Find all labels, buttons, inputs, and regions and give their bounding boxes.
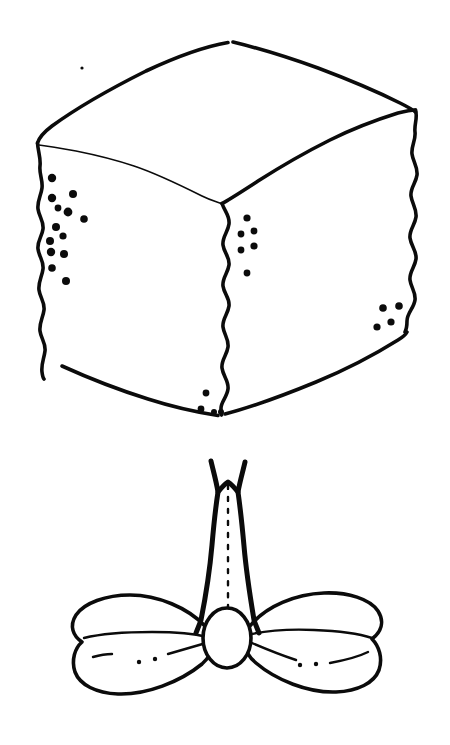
cube-dot bbox=[387, 318, 394, 325]
figure-canvas bbox=[0, 0, 450, 745]
cube-dot bbox=[48, 174, 56, 182]
cube-dot bbox=[250, 242, 257, 249]
cube-dot bbox=[373, 323, 380, 330]
cube-dot bbox=[244, 270, 251, 277]
cube-dot bbox=[69, 190, 77, 198]
cube-dot bbox=[52, 223, 60, 231]
line-drawing-svg bbox=[0, 0, 450, 745]
cube-dot bbox=[80, 215, 88, 223]
cube-dot bbox=[395, 302, 403, 310]
cube-dot bbox=[238, 231, 245, 238]
left-wing-dot bbox=[137, 660, 141, 664]
isolated-speck bbox=[80, 66, 83, 69]
cube-dot bbox=[218, 409, 224, 415]
right-wing-dot bbox=[314, 662, 318, 666]
cube-dot bbox=[203, 390, 210, 397]
cube-dot bbox=[243, 214, 250, 221]
central-bead bbox=[203, 608, 251, 668]
cube-dot bbox=[64, 208, 73, 217]
cube-dot bbox=[47, 248, 55, 256]
cube-dot bbox=[379, 304, 387, 312]
cube-dot bbox=[59, 232, 66, 239]
cube-dot bbox=[198, 406, 205, 413]
right-wing-dot bbox=[298, 663, 302, 667]
cube-dot bbox=[62, 277, 70, 285]
cube-dot bbox=[211, 409, 217, 415]
cube-dot bbox=[60, 250, 68, 258]
cube-dot bbox=[48, 264, 56, 272]
cube-dot bbox=[251, 228, 258, 235]
cube-dot bbox=[55, 205, 62, 212]
cube-dot bbox=[238, 247, 245, 254]
cube-dot bbox=[48, 194, 56, 202]
left-wing-dot bbox=[153, 657, 157, 661]
cube-dot bbox=[46, 237, 54, 245]
